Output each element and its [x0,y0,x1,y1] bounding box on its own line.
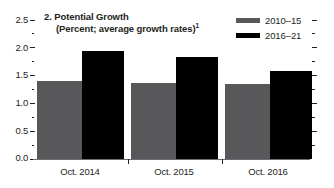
group-separator-2 [222,159,223,164]
y-tick-minor-right-1-75 [312,61,315,62]
bar-2016-21-oct-2016 [270,71,312,159]
y-tick-label-1-5: 1.5 [15,69,28,80]
y-tick-label-0-0: 0.0 [15,152,28,163]
y-tick-label-2-5: 2.5 [15,14,28,25]
x-tick-label-oct-2015: Oct. 2015 [130,166,218,177]
y-tick-major-right-1-0 [312,103,317,104]
x-axis-line [33,159,310,160]
y-tick-minor-1-25 [32,89,35,90]
y-tick-minor-right-0-75 [312,117,315,118]
y-tick-label-2-0: 2.0 [15,42,28,53]
y-tick-major-right-2-0 [312,47,317,48]
y-tick-major-right-1-5 [312,75,317,76]
plot-area [37,20,310,159]
potential-growth-chart: 2. Potential Growth (Percent; average gr… [0,0,334,188]
bar-2016-21-oct-2014 [82,51,124,159]
y-tick-minor-0-75 [32,117,35,118]
x-tick-label-oct-2014: Oct. 2014 [36,166,124,177]
y-tick-minor-right-0-25 [312,145,315,146]
y-tick-minor-right-2-25 [312,33,315,34]
y-tick-major-2-5 [30,20,35,21]
y-tick-major-1-0 [30,103,35,104]
y-tick-major-right-0-5 [312,131,317,132]
y-tick-label-0-5: 0.5 [15,125,28,136]
y-tick-minor-1-75 [32,61,35,62]
bar-2010-15-oct-2015 [131,83,176,159]
x-tick-label-oct-2016: Oct. 2016 [224,166,312,177]
bar-2010-15-oct-2014 [37,81,82,159]
y-tick-minor-right-1-25 [312,89,315,90]
y-tick-major-0-5 [30,131,35,132]
bar-2016-21-oct-2015 [176,57,218,159]
y-tick-major-2-0 [30,47,35,48]
group-separator-1 [128,159,129,164]
y-tick-major-1-5 [30,75,35,76]
bar-2010-15-oct-2016 [225,84,270,159]
y-tick-label-1-0: 1.0 [15,97,28,108]
y-tick-major-right-2-5 [312,20,317,21]
y-tick-minor-2-25 [32,33,35,34]
y-tick-minor-0-25 [32,145,35,146]
